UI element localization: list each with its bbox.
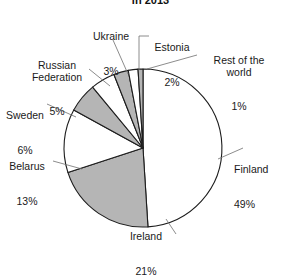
label-rest-value: 1% <box>196 101 282 113</box>
label-estonia-value: 2% <box>144 77 200 89</box>
label-ireland-value: 21% <box>108 266 184 278</box>
label-sweden-value: 6% <box>0 145 50 157</box>
label-estonia-name: Estonia <box>144 42 200 54</box>
label-ukraine-name: Ukraine <box>80 31 142 43</box>
label-rest-of-world: Rest of the world 1% <box>196 32 282 136</box>
label-russia-value: 5% <box>24 106 90 118</box>
label-ireland-name: Ireland <box>108 231 184 243</box>
label-estonia: Estonia 2% <box>144 19 200 111</box>
label-finland-value: 49% <box>234 199 298 211</box>
label-finland: Finland 49% <box>234 141 298 233</box>
label-rest-name: Rest of the world <box>196 55 282 78</box>
label-finland-name: Finland <box>234 164 298 176</box>
label-belarus-value: 13% <box>0 196 54 208</box>
label-ireland: Ireland 21% <box>108 208 184 279</box>
label-ukraine-value: 3% <box>80 66 142 78</box>
label-ukraine: Ukraine 3% <box>80 8 142 100</box>
